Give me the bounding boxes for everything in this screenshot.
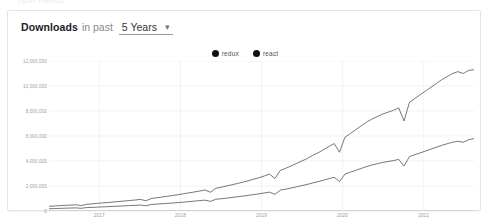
y-axis-tick-label: 2,000,000 (26, 184, 47, 189)
time-range-select[interactable]: 5 Years ▾ (119, 21, 173, 35)
page-root: npm trends Downloads in past 5 Years ▾ r… (0, 0, 488, 221)
y-axis-tick-label: 4,000,000 (26, 159, 47, 164)
y-axis: 02,000,0004,000,0006,000,0008,000,00010,… (8, 61, 50, 211)
chart-header: Downloads in past 5 Years ▾ (21, 21, 173, 36)
chart-legend: redux react (8, 50, 482, 57)
page-top-partial-text: npm trends (18, 0, 64, 5)
page-top-partial-strip: npm trends (0, 0, 488, 7)
legend-item-react[interactable]: react (253, 50, 278, 57)
legend-label: redux (222, 50, 239, 57)
x-axis-tick-label: 2020 (337, 213, 348, 218)
chart-plot-wrapper: 02,000,0004,000,0006,000,0008,000,00010,… (8, 61, 482, 211)
legend-dot-icon (212, 50, 219, 57)
x-axis-tick-label: 2019 (256, 213, 267, 218)
legend-dot-icon (253, 50, 260, 57)
x-axis-tick-label: 2021 (418, 213, 429, 218)
plot-area[interactable] (49, 61, 474, 211)
legend-label: react (263, 50, 278, 57)
x-axis-tick-label: 2018 (175, 213, 186, 218)
time-range-value: 5 Years (122, 21, 157, 33)
y-axis-tick-label: 0 (44, 209, 47, 214)
y-axis-tick-label: 8,000,000 (26, 109, 47, 114)
y-axis-tick-label: 12,000,000 (23, 59, 47, 64)
x-axis: 20172018201920202021 (49, 211, 474, 221)
header-subtitle: in past (82, 21, 113, 33)
chevron-down-icon: ▾ (165, 23, 170, 32)
y-axis-tick-label: 6,000,000 (26, 134, 47, 139)
downloads-chart-card: Downloads in past 5 Years ▾ redux react … (7, 10, 481, 211)
y-axis-tick-label: 10,000,000 (23, 84, 47, 89)
x-axis-tick-label: 2017 (94, 213, 105, 218)
legend-item-redux[interactable]: redux (212, 50, 239, 57)
page-title: Downloads (21, 21, 78, 33)
chart-svg (49, 61, 474, 211)
